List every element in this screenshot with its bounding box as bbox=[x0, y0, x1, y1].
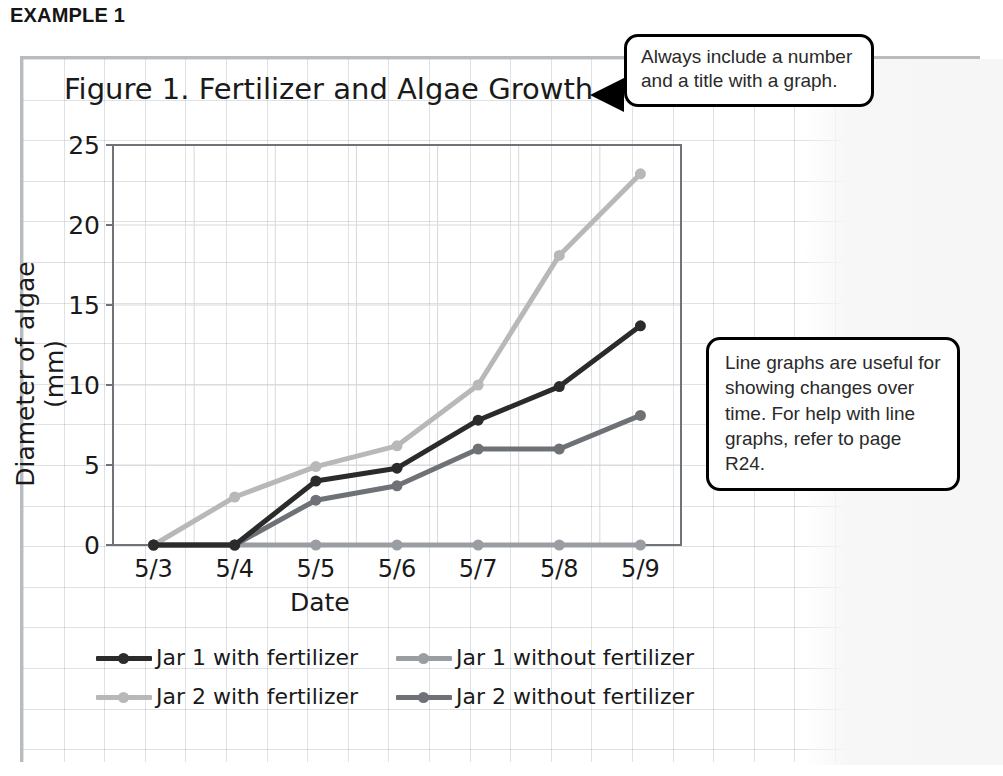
figure-title: Figure 1. Fertilizer and Algae Growth bbox=[64, 72, 593, 106]
page-title: EXAMPLE 1 bbox=[10, 4, 125, 27]
legend-swatch-icon bbox=[396, 688, 452, 706]
legend-marker-dot bbox=[118, 692, 129, 703]
legend-item-jar2-without-fertilizer[interactable]: Jar 2 without fertilizer bbox=[396, 684, 696, 709]
callout-line-graph-note: Line graphs are useful for showing chang… bbox=[706, 337, 960, 491]
legend-label: Jar 2 without fertilizer bbox=[456, 684, 694, 709]
legend-label: Jar 1 without fertilizer bbox=[456, 645, 694, 670]
callout-title-note: Always include a number and a title with… bbox=[624, 34, 874, 107]
legend-swatch-icon bbox=[96, 688, 152, 706]
legend-label: Jar 1 with fertilizer bbox=[156, 645, 358, 670]
legend-item-jar2-with-fertilizer[interactable]: Jar 2 with fertilizer bbox=[96, 684, 396, 709]
chart-legend: Jar 1 with fertilizer Jar 1 without fert… bbox=[96, 645, 716, 709]
legend-item-jar1-without-fertilizer[interactable]: Jar 1 without fertilizer bbox=[396, 645, 696, 670]
legend-label: Jar 2 with fertilizer bbox=[156, 684, 358, 709]
legend-swatch-icon bbox=[396, 649, 452, 667]
legend-item-jar1-with-fertilizer[interactable]: Jar 1 with fertilizer bbox=[96, 645, 396, 670]
legend-marker-dot bbox=[418, 692, 429, 703]
callout-pointer-triangle-icon bbox=[590, 78, 624, 112]
x-axis-title: Date bbox=[290, 588, 350, 617]
legend-marker-dot bbox=[118, 653, 129, 664]
legend-swatch-icon bbox=[96, 649, 152, 667]
legend-marker-dot bbox=[418, 653, 429, 664]
y-axis-title: Diameter of algae (mm) bbox=[11, 224, 69, 524]
